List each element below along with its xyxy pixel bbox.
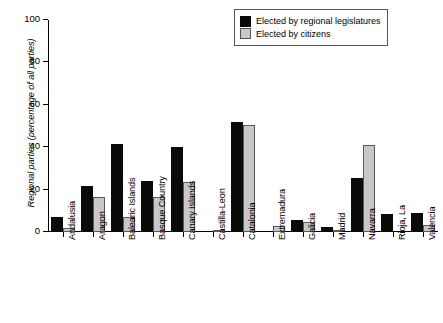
x-axis-label: Rioja, La xyxy=(397,205,407,240)
bar xyxy=(291,220,303,232)
legend-item: Elected by regional legislatures xyxy=(240,16,381,27)
legend-item: Elected by citizens xyxy=(240,28,381,39)
legend-label: Elected by citizens xyxy=(256,29,331,39)
bar xyxy=(111,144,123,232)
x-tick xyxy=(123,232,124,237)
x-axis-label: Basque Country xyxy=(157,176,167,240)
bar xyxy=(141,181,153,232)
bar xyxy=(81,186,93,232)
bar-group xyxy=(351,20,375,232)
y-tick-label: 40 xyxy=(29,140,40,151)
chart-legend: Elected by regional legislaturesElected … xyxy=(234,9,388,46)
legend-label: Elected by regional legislatures xyxy=(256,16,381,26)
x-tick xyxy=(93,232,94,237)
bar xyxy=(231,122,243,232)
x-tick xyxy=(243,232,244,237)
bar-group xyxy=(291,20,315,232)
x-axis-label: Madrid xyxy=(337,213,347,240)
bar xyxy=(351,178,363,232)
x-tick xyxy=(63,232,64,237)
bar xyxy=(171,147,183,232)
x-tick xyxy=(213,232,214,237)
bar-group xyxy=(81,20,105,232)
y-tick-label: 80 xyxy=(29,55,40,66)
x-tick xyxy=(303,232,304,237)
x-axis-label: Balearic Islands xyxy=(127,178,137,240)
bar xyxy=(51,217,63,232)
plot-area: 020406080100 AndalusiaAragonBalearic Isl… xyxy=(48,20,438,232)
x-axis-label: Catalonia xyxy=(247,203,257,240)
x-axis-label: Canary Islands xyxy=(187,181,197,240)
x-tick xyxy=(423,232,424,237)
bar xyxy=(411,213,423,232)
x-tick xyxy=(273,232,274,237)
bar-group xyxy=(381,20,405,232)
bar-group xyxy=(411,20,435,232)
x-tick xyxy=(363,232,364,237)
x-axis-label: Andalusia xyxy=(67,201,77,240)
bar xyxy=(321,227,333,232)
bar-chart: Regional parties (percentage of all part… xyxy=(0,0,443,323)
x-axis-label: Castilla-Leon xyxy=(217,188,227,240)
x-tick xyxy=(333,232,334,237)
x-tick xyxy=(393,232,394,237)
grey-swatch-icon xyxy=(240,28,251,39)
bar-group xyxy=(321,20,345,232)
y-tick-label: 20 xyxy=(29,183,40,194)
x-axis-label: Navarra xyxy=(367,208,377,240)
y-axis-title: Regional parties (percentage of all part… xyxy=(26,13,36,233)
bars-layer xyxy=(48,20,438,232)
y-tick-label: 100 xyxy=(24,13,40,24)
x-tick xyxy=(153,232,154,237)
bar-group xyxy=(231,20,255,232)
y-tick-label: 0 xyxy=(35,225,40,236)
y-tick-label: 60 xyxy=(29,98,40,109)
x-axis-label: Galicia xyxy=(307,213,317,240)
x-tick xyxy=(183,232,184,237)
x-axis-label: Extremadura xyxy=(277,189,287,240)
x-axis-label: Aragon xyxy=(97,211,107,240)
bar xyxy=(381,214,393,232)
black-swatch-icon xyxy=(240,16,251,27)
x-axis-label: Valencia xyxy=(427,207,437,240)
